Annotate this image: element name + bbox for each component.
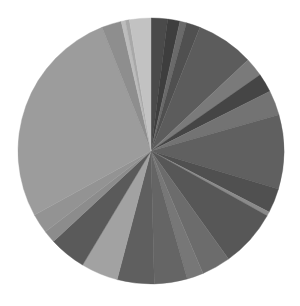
pie-slices: [18, 18, 284, 284]
pie-chart: [0, 0, 300, 306]
